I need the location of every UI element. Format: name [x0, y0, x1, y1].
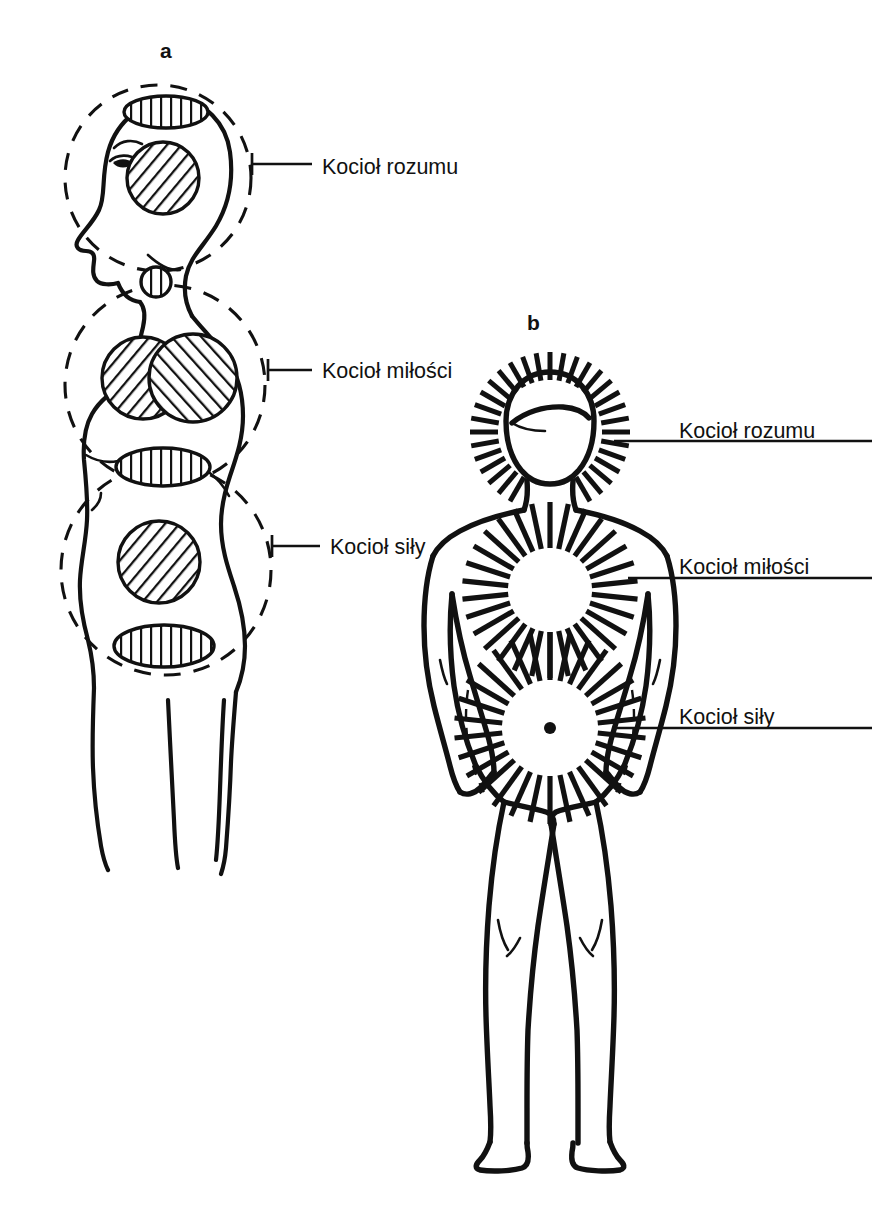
leader-a-mind	[252, 153, 312, 175]
leader-a-love	[268, 359, 312, 381]
panel-a-center-crown	[124, 96, 208, 128]
panel-a-center-root	[114, 625, 214, 667]
panel-a-center-throat	[141, 267, 171, 297]
panel-b-body-outline	[424, 510, 676, 1171]
panel-a-center-chest-right	[149, 334, 237, 422]
panel-a-center-abdomen	[118, 521, 200, 603]
navel-dot	[544, 722, 556, 734]
figure-vector-layer	[0, 0, 884, 1223]
panel-a-center-head	[127, 142, 199, 214]
panel-b-head-halo	[470, 352, 630, 510]
figure-root: a b Kocioł rozumu Kocioł miłości Kocioł …	[0, 0, 884, 1223]
panel-a-center-solar-plexus	[116, 448, 210, 486]
leader-a-power	[272, 535, 320, 557]
